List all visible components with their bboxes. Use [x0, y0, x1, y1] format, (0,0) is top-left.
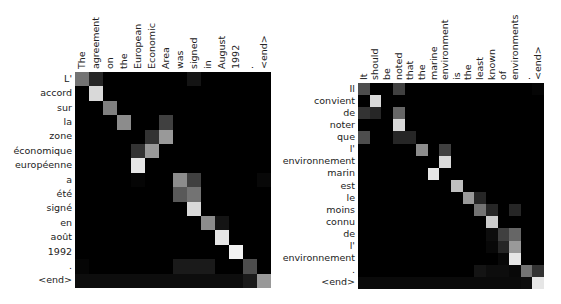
heatmap-cell — [439, 228, 451, 240]
heatmap-cell — [486, 119, 498, 131]
heatmap-cell — [498, 144, 510, 156]
x-tick-label: marine — [429, 47, 439, 81]
heatmap-cell — [358, 119, 370, 131]
heatmap-cell — [532, 180, 544, 192]
heatmap-cell — [439, 156, 451, 168]
heatmap-cell — [486, 192, 498, 204]
heatmap-cell — [103, 101, 117, 115]
y-tick-label: la — [64, 117, 72, 127]
heatmap-cell — [89, 202, 103, 216]
x-tick-label: known — [487, 49, 497, 80]
heatmap-cell — [159, 230, 173, 244]
heatmap-cell — [405, 277, 417, 289]
heatmap-cell — [370, 83, 382, 95]
x-tick-label: be — [382, 68, 392, 80]
heatmap-cell — [428, 241, 440, 253]
x-tick-label: signed — [189, 37, 199, 69]
heatmap-cell — [405, 180, 417, 192]
heatmap-cell — [521, 156, 533, 168]
x-tick-label: on — [105, 57, 115, 69]
heatmap-cell — [89, 101, 103, 115]
heatmap-cell — [498, 180, 510, 192]
heatmap-cell — [509, 83, 521, 95]
heatmap-cell — [439, 107, 451, 119]
heatmap-cell — [405, 228, 417, 240]
heatmap-cell — [405, 168, 417, 180]
heatmap-cell — [89, 130, 103, 144]
heatmap-cell — [103, 115, 117, 129]
heatmap-cell — [187, 259, 201, 273]
y-tick-label: environnement — [283, 156, 355, 166]
heatmap-cell — [381, 95, 393, 107]
heatmap-cell — [257, 72, 271, 86]
heatmap-cell — [509, 107, 521, 119]
heatmap-cell — [215, 216, 229, 230]
heatmap-cell — [187, 230, 201, 244]
heatmap-cell — [509, 119, 521, 131]
heatmap-cell — [532, 241, 544, 253]
heatmap-cell — [75, 115, 89, 129]
heatmap-cell — [243, 130, 257, 144]
heatmap-cell — [173, 230, 187, 244]
heatmap-cell — [201, 216, 215, 230]
heatmap-cell — [215, 173, 229, 187]
y-tick-label: environnement — [283, 253, 355, 263]
heatmap-cell — [486, 265, 498, 277]
heatmap-cell — [463, 216, 475, 228]
heatmap-cell — [103, 230, 117, 244]
y-tick-label: de — [343, 108, 355, 118]
heatmap-cell — [451, 180, 463, 192]
heatmap-cell — [173, 245, 187, 259]
heatmap-cell — [381, 241, 393, 253]
heatmap-cell — [451, 204, 463, 216]
heatmap-cell — [474, 192, 486, 204]
heatmap-cell — [428, 192, 440, 204]
heatmap-cell — [75, 202, 89, 216]
heatmap-cell — [201, 86, 215, 100]
heatmap-cell — [89, 187, 103, 201]
heatmap-cell — [498, 204, 510, 216]
heatmap-cell — [370, 180, 382, 192]
heatmap-cell — [187, 130, 201, 144]
heatmap-cell — [405, 192, 417, 204]
y-tick-label: accord — [40, 88, 72, 98]
heatmap-cell — [243, 101, 257, 115]
y-tick-label: noter — [330, 120, 355, 130]
heatmap-cell — [393, 168, 405, 180]
heatmap-cell — [215, 202, 229, 216]
heatmap-cell — [173, 202, 187, 216]
heatmap-cell — [509, 265, 521, 277]
heatmap-cell — [416, 241, 428, 253]
heatmap-cell — [393, 83, 405, 95]
heatmap-cell — [358, 131, 370, 143]
heatmap-cell — [370, 216, 382, 228]
heatmap-cell — [159, 101, 173, 115]
heatmap-cell — [243, 202, 257, 216]
heatmap-cell — [75, 130, 89, 144]
heatmap-cell — [405, 216, 417, 228]
heatmap-cell — [103, 274, 117, 288]
heatmap-cell — [532, 216, 544, 228]
x-tick-label: 1992 — [231, 45, 241, 69]
heatmap-cell — [381, 107, 393, 119]
heatmap-cell — [131, 173, 145, 187]
heatmap-cell — [428, 156, 440, 168]
heatmap-cell — [215, 144, 229, 158]
heatmap-cell — [159, 202, 173, 216]
heatmap-cell — [370, 131, 382, 143]
heatmap-cell — [509, 131, 521, 143]
heatmap-cell — [243, 72, 257, 86]
heatmap-cell — [370, 119, 382, 131]
heatmap-cell — [393, 228, 405, 240]
heatmap-cell — [75, 274, 89, 288]
y-tick-label: L' — [64, 74, 72, 84]
heatmap-cell — [521, 83, 533, 95]
heatmap-cell — [243, 144, 257, 158]
heatmap-cell — [117, 86, 131, 100]
heatmap-cell — [474, 168, 486, 180]
heatmap-cell — [381, 83, 393, 95]
y-tick-label: marin — [327, 168, 355, 178]
heatmap-cell — [215, 259, 229, 273]
heatmap-cell — [428, 228, 440, 240]
heatmap-cell — [463, 241, 475, 253]
